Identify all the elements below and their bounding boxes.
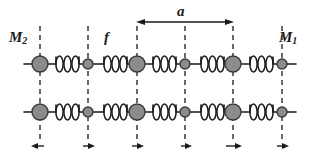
- displacement-arrow-3: [132, 143, 144, 149]
- lower-link-3: [145, 105, 153, 112]
- spring-lower-5: [250, 104, 273, 120]
- label-lattice-constant: a: [177, 4, 185, 19]
- mass-light-upper-3: [277, 59, 287, 69]
- displacement-arrow-4: [181, 143, 192, 149]
- upper-chain: [24, 56, 296, 72]
- mass-light-lower-1: [83, 107, 93, 117]
- mass-light-upper-2: [180, 59, 190, 69]
- lower-link-1: [48, 105, 56, 112]
- upper-link-4: [190, 57, 201, 64]
- displacement-arrows: [31, 143, 289, 149]
- mass-heavy-lower-1: [32, 104, 48, 120]
- lower-link-4: [190, 105, 201, 112]
- mass-light-lower-3: [277, 107, 287, 117]
- lower-link-5: [241, 105, 250, 112]
- upper-link-5: [241, 57, 250, 64]
- spring-upper-3: [153, 56, 176, 72]
- lower-chain: [24, 104, 296, 120]
- displacement-arrow-5: [226, 143, 242, 149]
- spring-upper-2: [104, 56, 127, 72]
- upper-link-2: [93, 57, 104, 64]
- spring-upper-4: [201, 56, 224, 72]
- spring-lower-4: [201, 104, 224, 120]
- dimension-arrowhead-left: [136, 19, 145, 25]
- label-mass-m2-subscript: 2: [22, 35, 27, 46]
- mass-light-lower-2: [180, 107, 190, 117]
- label-spring-constant: f: [104, 30, 109, 45]
- dimension-arrowhead-right: [225, 19, 234, 25]
- lower-link-2: [93, 105, 104, 112]
- mass-heavy-upper-3: [225, 56, 241, 72]
- lattice-diagram: [0, 0, 317, 165]
- mass-heavy-upper-2: [129, 56, 145, 72]
- dashed-guide-lines: [40, 26, 282, 139]
- label-mass-m2-symbol: M: [9, 29, 22, 45]
- label-mass-m1-subscript: 1: [292, 35, 297, 46]
- displacement-arrow-6: [277, 143, 289, 149]
- upper-link-1: [48, 57, 56, 64]
- mass-heavy-lower-3: [225, 104, 241, 120]
- figure-canvas: M2 M1 f a: [0, 0, 317, 165]
- displacement-arrow-2: [83, 143, 95, 149]
- spring-upper-5: [250, 56, 273, 72]
- spring-lower-1: [56, 104, 79, 120]
- upper-link-3: [145, 57, 153, 64]
- displacement-arrow-1: [31, 143, 44, 149]
- mass-heavy-lower-2: [129, 104, 145, 120]
- mass-heavy-upper-1: [32, 56, 48, 72]
- mass-light-upper-1: [83, 59, 93, 69]
- spring-lower-2: [104, 104, 127, 120]
- spring-upper-1: [56, 56, 79, 72]
- spring-lower-3: [153, 104, 176, 120]
- label-mass-m1: M1: [279, 30, 297, 45]
- lattice-constant-dimension: [136, 19, 234, 25]
- label-mass-m2: M2: [9, 30, 27, 45]
- label-mass-m1-symbol: M: [279, 29, 292, 45]
